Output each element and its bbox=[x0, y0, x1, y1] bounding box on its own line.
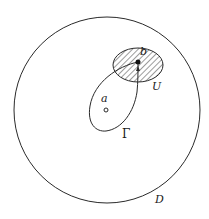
label-d: D bbox=[154, 193, 164, 206]
point-b-dot bbox=[136, 60, 141, 65]
label-a: a bbox=[101, 92, 108, 105]
label-gamma: Γ bbox=[122, 127, 130, 141]
label-b: b bbox=[140, 45, 147, 58]
point-a-marker bbox=[104, 108, 108, 112]
diagram-canvas: D U Γ b a bbox=[0, 0, 209, 219]
label-u: U bbox=[152, 80, 162, 93]
